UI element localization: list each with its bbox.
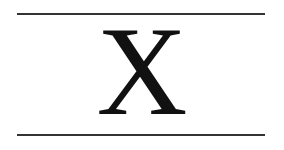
x-glyph: X [0, 9, 284, 135]
bottom-rule-line [17, 134, 265, 136]
